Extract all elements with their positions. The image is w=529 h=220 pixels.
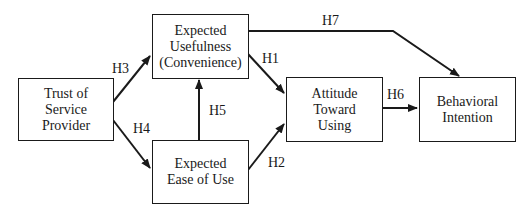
node-expected-ease-of-use: Expected Ease of Use — [152, 140, 249, 204]
node-attitude-toward-using: Attitude Toward Using — [286, 77, 383, 142]
edge-label-h1: H1 — [262, 52, 279, 66]
node-text: Expected — [174, 156, 226, 172]
edge-label-h5: H5 — [209, 104, 226, 118]
edge-label-h6: H6 — [387, 88, 404, 102]
node-text: (Convenience) — [159, 55, 241, 71]
node-trust-of-service-provider: Trust of Service Provider — [18, 78, 114, 141]
node-expected-usefulness: Expected Usefulness (Convenience) — [152, 14, 249, 79]
node-text: Ease of Use — [167, 172, 234, 188]
edge-label-h7: H7 — [322, 14, 339, 28]
node-behavioral-intention: Behavioral Intention — [419, 77, 516, 142]
edge-label-h3: H3 — [112, 62, 129, 76]
node-text: Toward — [313, 102, 356, 118]
node-text: Service — [45, 102, 87, 118]
node-text: Using — [318, 118, 351, 134]
node-text: Usefulness — [170, 39, 231, 55]
node-text: Provider — [42, 118, 90, 134]
node-text: Intention — [442, 110, 493, 126]
node-text: Attitude — [312, 86, 358, 102]
node-text: Trust of — [44, 86, 88, 102]
node-text: Behavioral — [437, 94, 498, 110]
node-text: Expected — [174, 23, 226, 39]
edge-h7 — [248, 31, 459, 76]
edge-label-h4: H4 — [133, 122, 150, 136]
edge-label-h2: H2 — [268, 156, 285, 170]
